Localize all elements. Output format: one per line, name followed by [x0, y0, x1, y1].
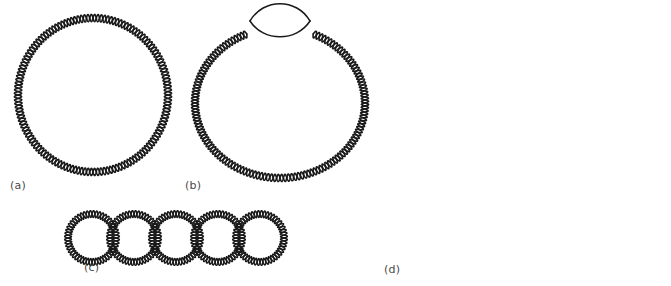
panel-a-closed-circular-dna: [0, 0, 185, 200]
panel-label-b: (b): [185, 179, 201, 192]
panel-b-bubble-strand-lower: [250, 21, 310, 37]
panel-d-electron-micrograph: [380, 0, 671, 286]
panel-label-a: (a): [10, 179, 26, 192]
panel-label-c: (c): [84, 261, 99, 274]
panel-a-duplex-strand-1: [14, 14, 171, 175]
circular-dna-with-denaturation-bubble-diagram: [185, 0, 380, 200]
panel-a-duplex-strand-2: [14, 14, 171, 175]
panel-b-bubble-strand-upper: [250, 4, 310, 21]
figure-root: (a) (b) (c) (d): [0, 0, 671, 286]
panel-label-d: (d): [384, 263, 400, 276]
closed-circular-duplex-dna-diagram: [0, 0, 185, 200]
panel-b-circular-dna-with-bubble: [185, 0, 380, 200]
